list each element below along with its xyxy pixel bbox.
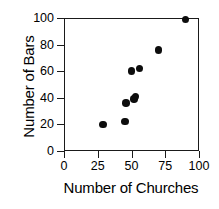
- y-axis-tick-label: 0: [24, 145, 54, 157]
- x-axis-tick-label: 100: [179, 160, 219, 173]
- y-axis-tick-label-wrap: 40: [22, 92, 54, 104]
- y-axis-title: Number of Bars: [20, 7, 37, 167]
- y-axis-tick-mark: [57, 124, 64, 125]
- y-axis-tick-label: 40: [24, 92, 54, 104]
- y-axis-tick-label: 20: [24, 118, 54, 130]
- y-axis-tick-mark: [57, 71, 64, 72]
- y-axis-tick-label-wrap: 60: [22, 65, 54, 77]
- y-axis-tick-mark: [57, 45, 64, 46]
- y-axis-tick-label-wrap: 0: [22, 145, 54, 157]
- y-axis-tick-label-wrap: 20: [22, 118, 54, 130]
- x-axis-tick-mark: [165, 151, 166, 158]
- x-axis-tick-mark: [199, 151, 200, 158]
- y-axis-tick-label: 60: [24, 65, 54, 77]
- y-axis-tick-label-wrap: 100: [22, 12, 54, 24]
- scatter-plot-figure: Number of Bars 020406080100 0255075100 N…: [0, 0, 219, 209]
- y-axis-tick-mark: [57, 98, 64, 99]
- y-axis-tick-label-wrap: 80: [22, 39, 54, 51]
- y-axis-tick-mark: [57, 18, 64, 19]
- x-axis-tick-mark: [98, 151, 99, 158]
- plot-area-frame: [64, 18, 199, 151]
- x-axis-tick-mark: [132, 151, 133, 158]
- y-axis-tick-mark: [57, 151, 64, 152]
- y-axis-tick-label: 100: [24, 12, 54, 24]
- x-axis-tick-mark: [64, 151, 65, 158]
- y-axis-tick-label: 80: [24, 39, 54, 51]
- x-axis-tick-label-wrap: 100: [179, 160, 219, 173]
- x-axis-title: Number of Churches: [46, 179, 216, 196]
